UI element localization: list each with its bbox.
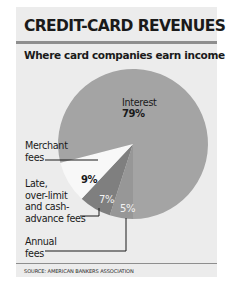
interest-percent: 79% [122,108,145,119]
merchant-label: Merchant fees [25,140,68,163]
late-fees-label: Late, over-limit and cash- advance fees [25,178,85,224]
annual-fees-percent: 5% [120,203,135,214]
annual-fees-label: Annual fees [25,236,57,259]
chart-panel: CREDIT-CARD REVENUES Where card companie… [16,7,217,277]
interest-label: Interest [122,97,157,109]
source-note: SOURCE: AMERICAN BANKERS ASSOCIATION [24,268,134,274]
source-rule [16,263,217,264]
late-fees-percent: 7% [99,194,114,205]
